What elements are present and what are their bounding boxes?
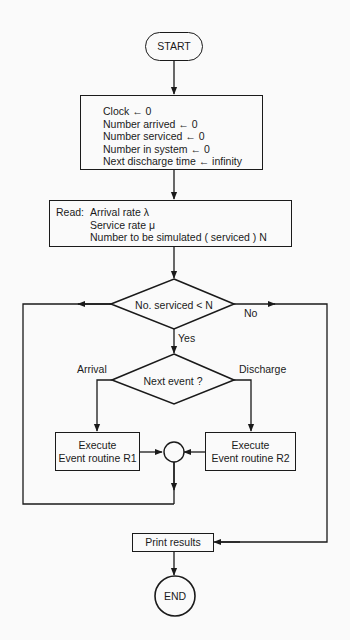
arrival-label: Arrival bbox=[77, 363, 107, 375]
init-line: Clock ← 0 bbox=[103, 105, 262, 118]
init-box: Clock ← 0 Number arrived ← 0 Number serv… bbox=[80, 95, 263, 170]
r1-line1: Execute bbox=[79, 439, 117, 452]
init-line: Number serviced ← 0 bbox=[103, 130, 262, 143]
routine-r1-box: Execute Event routine R1 bbox=[55, 432, 140, 471]
no-label: No bbox=[244, 307, 257, 319]
decision-serviced-text: No. serviced < N bbox=[135, 299, 213, 311]
yes-label: Yes bbox=[178, 332, 195, 344]
discharge-label: Discharge bbox=[239, 363, 286, 375]
read-line: Service rate μ bbox=[90, 219, 267, 232]
loop-path bbox=[23, 304, 174, 504]
start-terminal: START bbox=[145, 32, 203, 61]
arrow-discharge bbox=[234, 380, 251, 431]
routine-r2-box: Execute Event routine R2 bbox=[205, 432, 296, 471]
read-line: Number to be simulated ( serviced ) N bbox=[90, 231, 267, 244]
init-line: Number arrived ← 0 bbox=[103, 118, 262, 131]
read-prefix: Read: bbox=[56, 206, 90, 246]
end-label: END bbox=[164, 590, 186, 602]
r2-line1: Execute bbox=[232, 439, 270, 452]
no-path bbox=[216, 304, 327, 542]
start-label: START bbox=[157, 40, 190, 53]
print-results-box: Print results bbox=[132, 533, 214, 552]
read-box: Read: Arrival rate λ Service rate μ Numb… bbox=[49, 200, 292, 247]
decision-event-text: Next event ? bbox=[144, 375, 203, 387]
arrow-arrival bbox=[97, 380, 112, 431]
r2-line2: Event routine R2 bbox=[211, 452, 289, 465]
init-line: Number in system ← 0 bbox=[103, 143, 262, 156]
r1-line2: Event routine R1 bbox=[58, 452, 136, 465]
junction-connector bbox=[164, 442, 184, 462]
init-line: Next discharge time ← infinity bbox=[103, 155, 262, 168]
read-line: Arrival rate λ bbox=[90, 206, 267, 219]
print-label: Print results bbox=[145, 536, 200, 549]
